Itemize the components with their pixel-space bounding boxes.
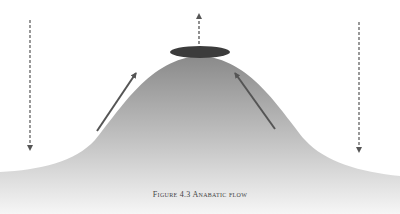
anabatic-flow-diagram: [0, 0, 400, 214]
cap-cloud: [170, 46, 230, 58]
figure-caption: Figure 4.3 Anabatic flow: [0, 190, 400, 199]
